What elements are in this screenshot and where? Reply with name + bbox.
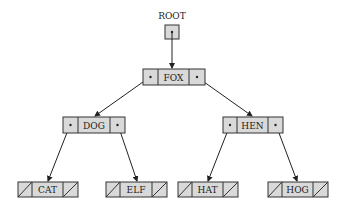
edge-fox-dog: [95, 77, 150, 116]
node-key: HEN: [241, 121, 263, 131]
node-key: FOX: [164, 73, 184, 83]
node-hat: HAT: [178, 182, 238, 197]
root-label: ROOT: [158, 11, 186, 21]
node-key: DOG: [83, 121, 105, 131]
node-elf: ELF: [106, 182, 167, 197]
tree-diagram: ROOT FOX DOG HEN: [0, 0, 344, 215]
node-hog: HOG: [268, 182, 328, 197]
node-dog: DOG: [63, 117, 125, 133]
node-hen: HEN: [223, 117, 283, 133]
node-key: HOG: [286, 185, 308, 195]
node-fox: FOX: [143, 69, 205, 85]
node-cat: CAT: [18, 182, 78, 197]
node-key: HAT: [198, 185, 218, 195]
node-key: CAT: [38, 185, 57, 195]
node-key: ELF: [127, 185, 146, 195]
